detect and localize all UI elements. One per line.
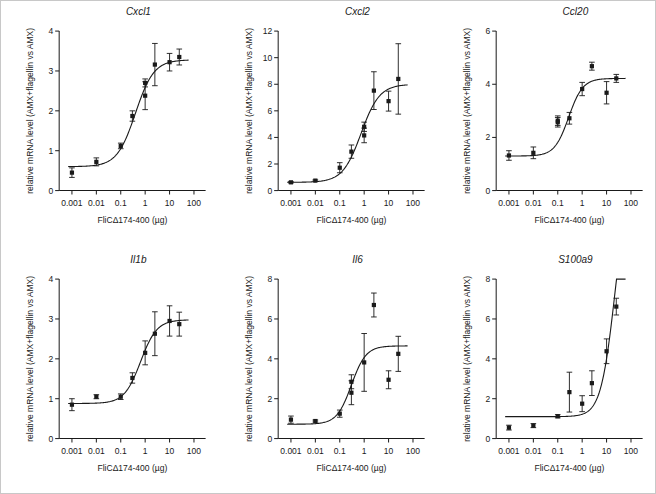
panel-cxcl2: Cxcl20246810120.0010.010.1110100FliCΔ174… xyxy=(220,1,439,249)
panel-s100a9: S100a9024680.0010.010.1110100FliCΔ174-40… xyxy=(438,249,656,494)
fit-curve xyxy=(68,320,188,403)
y-tick-label: 2 xyxy=(48,106,53,116)
x-tick-label: 0.001 xyxy=(61,445,83,455)
x-tick-label: 0.001 xyxy=(280,445,302,455)
data-point xyxy=(288,416,294,423)
y-axis-title: relative mRNA level (AMX+flagellin vs AM… xyxy=(462,275,472,441)
data-point xyxy=(531,423,537,427)
marker xyxy=(605,349,609,353)
marker xyxy=(349,379,353,383)
y-tick-label: 0 xyxy=(267,433,272,443)
data-point xyxy=(506,151,512,161)
marker xyxy=(371,89,375,93)
x-tick-label: 100 xyxy=(624,445,638,455)
y-tick-label: 2 xyxy=(486,393,491,403)
y-tick-label: 0 xyxy=(48,186,53,196)
y-tick-label: 8 xyxy=(486,274,491,284)
panel-title: Ccl20 xyxy=(563,6,589,17)
y-tick-label: 1 xyxy=(48,393,53,403)
y-axis-title: relative mRNA level (AMX+flagellin vs AM… xyxy=(244,275,254,441)
marker xyxy=(119,394,123,398)
x-tick-label: 0.01 xyxy=(525,198,542,208)
y-axis-title: relative mRNA level (AMX+flagellin vs AM… xyxy=(462,28,472,194)
x-tick-label: 1 xyxy=(143,445,148,455)
marker xyxy=(130,114,134,118)
data-point xyxy=(118,143,124,149)
data-point xyxy=(555,414,561,418)
panel-title: Il1b xyxy=(130,254,147,265)
data-point xyxy=(167,53,173,71)
y-tick-label: 2 xyxy=(267,393,272,403)
y-tick-label: 2 xyxy=(48,354,53,364)
x-axis-title: FliCΔ174-400 (µg) xyxy=(535,215,605,225)
marker xyxy=(337,411,341,415)
data-point xyxy=(371,72,377,110)
y-tick-label: 4 xyxy=(267,354,272,364)
marker xyxy=(590,64,594,68)
data-point xyxy=(371,293,377,317)
y-tick-label: 0 xyxy=(486,433,491,443)
data-point xyxy=(176,49,182,65)
data-point xyxy=(94,394,100,398)
marker xyxy=(70,402,74,406)
x-tick-label: 100 xyxy=(406,198,420,208)
data-point xyxy=(385,91,391,111)
y-axis-title: relative mRNA level (AMX+flagellin vs AM… xyxy=(25,28,35,194)
x-tick-label: 0.001 xyxy=(61,198,83,208)
marker xyxy=(556,120,560,124)
data-point xyxy=(348,375,354,389)
x-tick-label: 1 xyxy=(143,198,148,208)
x-tick-label: 0.01 xyxy=(525,445,542,455)
data-point xyxy=(580,82,586,95)
marker xyxy=(288,180,292,184)
marker xyxy=(313,419,317,423)
y-tick-label: 4 xyxy=(486,354,491,364)
chart-ccl20: Ccl2002460.0010.010.1110100FliCΔ174-400 … xyxy=(438,1,656,249)
x-tick-label: 0.01 xyxy=(88,445,105,455)
y-tick-label: 12 xyxy=(262,26,272,36)
x-tick-label: 10 xyxy=(165,445,175,455)
marker xyxy=(580,87,584,91)
y-tick-label: 0 xyxy=(267,186,272,196)
panel-il1b: Il1b012340.0010.010.1110100FliCΔ174-400 … xyxy=(1,249,220,494)
marker xyxy=(143,350,147,354)
marker xyxy=(580,401,584,405)
data-point xyxy=(589,371,595,396)
marker xyxy=(130,376,134,380)
marker xyxy=(615,304,619,308)
data-point xyxy=(118,394,124,400)
data-point xyxy=(614,74,620,82)
data-point xyxy=(337,410,343,417)
y-tick-label: 8 xyxy=(267,274,272,284)
x-tick-label: 10 xyxy=(383,445,393,455)
marker xyxy=(568,116,572,120)
x-tick-label: 100 xyxy=(406,445,420,455)
data-point xyxy=(385,371,391,389)
marker xyxy=(507,153,511,157)
x-axis-title: FliCΔ174-400 (µg) xyxy=(98,462,168,472)
y-tick-label: 8 xyxy=(267,79,272,89)
marker xyxy=(371,303,375,307)
y-tick-label: 0 xyxy=(486,186,491,196)
chart-s100a9: S100a9024680.0010.010.1110100FliCΔ174-40… xyxy=(438,249,656,494)
marker xyxy=(337,166,341,170)
data-point xyxy=(531,147,537,159)
chart-cxcl1: Cxcl1012340.0010.010.1110100FliCΔ174-400… xyxy=(1,1,220,249)
marker xyxy=(349,390,353,394)
x-tick-label: 0.01 xyxy=(88,198,105,208)
fit-curve xyxy=(68,60,188,166)
x-tick-label: 10 xyxy=(383,198,393,208)
marker xyxy=(556,414,560,418)
y-tick-label: 1 xyxy=(48,146,53,156)
marker xyxy=(615,76,619,80)
y-axis-title: relative mRNA level (AMX+flagellin vs AM… xyxy=(244,28,254,194)
data-point xyxy=(395,44,401,114)
marker xyxy=(362,360,366,364)
x-tick-label: 100 xyxy=(624,198,638,208)
data-point xyxy=(567,112,573,124)
marker xyxy=(177,55,181,59)
y-tick-label: 6 xyxy=(267,106,272,116)
x-tick-label: 0.001 xyxy=(499,445,521,455)
x-tick-label: 100 xyxy=(187,445,201,455)
panel-title: Cxcl2 xyxy=(345,6,370,17)
